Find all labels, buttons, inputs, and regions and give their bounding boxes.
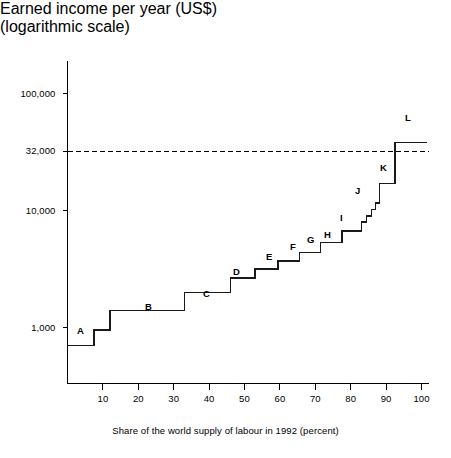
- x-axis-tick-label: 10: [83, 393, 123, 404]
- step-letter-l: L: [405, 112, 411, 123]
- plot-area: [0, 0, 451, 458]
- axes-group: [63, 61, 429, 390]
- step-letter-j: J: [355, 185, 360, 196]
- x-axis-tick-label: 100: [402, 393, 442, 404]
- x-axis-tick-label: 90: [366, 393, 406, 404]
- x-axis-caption: Share of the world supply of labour in 1…: [0, 425, 451, 436]
- step-letter-h: H: [324, 229, 331, 240]
- x-axis-tick-label: 60: [260, 393, 300, 404]
- step-letter-i: I: [340, 212, 343, 223]
- step-letter-k: K: [380, 162, 387, 173]
- step-letter-f: F: [290, 241, 296, 252]
- x-axis-tick-label: 20: [118, 393, 158, 404]
- step-series-group: [68, 143, 427, 346]
- x-axis-tick-label: 40: [189, 393, 229, 404]
- y-axis-tick-label: 32,000: [0, 145, 56, 156]
- step-letter-b: B: [145, 301, 152, 312]
- y-axis-tick-label: 1,000: [0, 322, 56, 333]
- chart-root: Earned income per year (US$)(logarithmic…: [0, 0, 451, 458]
- income-staircase-path: [68, 143, 427, 346]
- x-axis-tick-label: 30: [154, 393, 194, 404]
- y-axis-tick-label: 10,000: [0, 205, 56, 216]
- step-letter-g: G: [307, 234, 315, 245]
- step-letter-a: A: [77, 325, 84, 336]
- step-letter-d: D: [233, 266, 240, 277]
- x-axis-tick-label: 50: [225, 393, 265, 404]
- x-axis-tick-label: 70: [295, 393, 335, 404]
- step-letter-c: C: [203, 288, 210, 299]
- step-letter-e: E: [266, 251, 273, 262]
- x-axis-tick-label: 80: [331, 393, 371, 404]
- y-axis-tick-label: 100,000: [0, 88, 56, 99]
